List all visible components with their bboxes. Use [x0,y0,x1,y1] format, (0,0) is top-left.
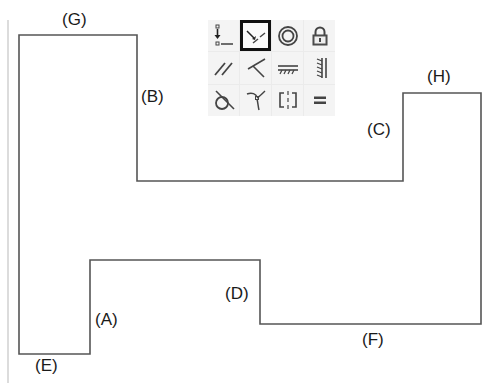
midpoint-icon [244,24,268,48]
vertex-label-b: (B) [141,88,164,105]
vertical-icon [308,56,332,80]
vertex-label-c: (C) [367,121,391,138]
vertical-button[interactable] [304,52,335,83]
equal-icon [308,88,332,112]
parallel-icon [212,56,236,80]
horizontal-button[interactable] [272,52,303,83]
equal-button[interactable] [304,85,335,116]
tangent-button[interactable] [208,85,239,116]
concentric-button[interactable] [272,20,303,51]
coincident-icon [212,24,236,48]
vertex-label-e: (E) [35,357,58,374]
vertex-label-g: (G) [62,11,87,28]
midpoint-button[interactable] [240,20,271,51]
smooth-icon [244,88,268,112]
tangent-icon [212,88,236,112]
concentric-icon [276,24,300,48]
coincident-button[interactable] [208,20,239,51]
constraint-toolbar [208,20,335,116]
parallel-button[interactable] [208,52,239,83]
symmetric-button[interactable] [272,85,303,116]
vertex-label-f: (F) [362,331,384,348]
perpendicular-button[interactable] [240,52,271,83]
lock-icon [308,24,332,48]
horizontal-icon [276,56,300,80]
vertex-label-h: (H) [427,68,451,85]
symmetric-icon [276,88,300,112]
perpendicular-icon [244,56,268,80]
fix-button[interactable] [304,20,335,51]
vertex-label-a: (A) [95,311,118,328]
vertex-label-d: (D) [225,285,249,302]
smooth-button[interactable] [240,85,271,116]
